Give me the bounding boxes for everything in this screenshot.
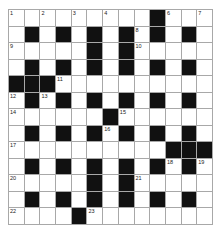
grid-cell[interactable] (166, 93, 182, 110)
grid-cell[interactable] (56, 109, 72, 126)
grid-cell[interactable] (103, 208, 119, 225)
grid-cell[interactable]: 15 (119, 109, 135, 126)
grid-cell[interactable] (9, 60, 25, 77)
grid-cell[interactable] (56, 175, 72, 192)
grid-cell[interactable]: 22 (9, 208, 25, 225)
grid-cell[interactable] (135, 76, 151, 93)
grid-cell[interactable] (103, 93, 119, 110)
grid-cell[interactable] (150, 142, 166, 159)
grid-cell[interactable] (119, 76, 135, 93)
grid-cell[interactable] (150, 109, 166, 126)
grid-cell[interactable] (72, 126, 88, 143)
grid-cell[interactable] (56, 43, 72, 60)
grid-cell[interactable] (40, 142, 56, 159)
grid-cell[interactable] (56, 10, 72, 27)
grid-cell[interactable]: 4 (103, 10, 119, 27)
grid-cell[interactable] (40, 126, 56, 143)
grid-cell[interactable] (135, 142, 151, 159)
grid-cell[interactable] (197, 43, 213, 60)
grid-cell[interactable] (56, 208, 72, 225)
grid-cell[interactable] (103, 175, 119, 192)
grid-cell[interactable]: 23 (87, 208, 103, 225)
grid-cell[interactable] (182, 175, 198, 192)
grid-cell[interactable] (197, 109, 213, 126)
grid-cell[interactable] (103, 192, 119, 209)
grid-cell[interactable] (166, 175, 182, 192)
grid-cell[interactable] (166, 43, 182, 60)
grid-cell[interactable] (135, 126, 151, 143)
grid-cell[interactable] (103, 159, 119, 176)
grid-cell[interactable] (197, 175, 213, 192)
grid-cell[interactable] (72, 159, 88, 176)
grid-cell[interactable]: 7 (197, 10, 213, 27)
grid-cell[interactable] (40, 109, 56, 126)
grid-cell[interactable] (166, 109, 182, 126)
grid-cell[interactable] (72, 93, 88, 110)
grid-cell[interactable]: 3 (72, 10, 88, 27)
grid-cell[interactable] (40, 43, 56, 60)
grid-cell[interactable] (40, 159, 56, 176)
grid-cell[interactable] (119, 10, 135, 27)
grid-cell[interactable] (182, 109, 198, 126)
grid-cell[interactable] (9, 126, 25, 143)
grid-cell[interactable] (103, 27, 119, 44)
grid-cell[interactable]: 1 (9, 10, 25, 27)
grid-cell[interactable] (182, 43, 198, 60)
grid-cell[interactable]: 11 (56, 76, 72, 93)
grid-cell[interactable] (72, 109, 88, 126)
grid-cell[interactable] (197, 76, 213, 93)
grid-cell[interactable] (103, 142, 119, 159)
grid-cell[interactable] (197, 93, 213, 110)
grid-cell[interactable] (103, 60, 119, 77)
grid-cell[interactable] (135, 192, 151, 209)
grid-cell[interactable] (166, 192, 182, 209)
grid-cell[interactable]: 16 (103, 126, 119, 143)
grid-cell[interactable] (87, 109, 103, 126)
grid-cell[interactable] (166, 126, 182, 143)
grid-cell[interactable] (9, 192, 25, 209)
grid-cell[interactable] (182, 76, 198, 93)
grid-cell[interactable] (119, 208, 135, 225)
grid-cell[interactable] (72, 27, 88, 44)
grid-cell[interactable] (182, 10, 198, 27)
grid-cell[interactable] (87, 10, 103, 27)
grid-cell[interactable]: 20 (9, 175, 25, 192)
grid-cell[interactable]: 10 (135, 43, 151, 60)
grid-cell[interactable] (166, 76, 182, 93)
grid-cell[interactable] (56, 142, 72, 159)
grid-cell[interactable] (25, 43, 41, 60)
grid-cell[interactable] (135, 93, 151, 110)
grid-cell[interactable] (103, 43, 119, 60)
grid-cell[interactable]: 21 (135, 175, 151, 192)
grid-cell[interactable] (135, 10, 151, 27)
grid-cell[interactable] (197, 126, 213, 143)
grid-cell[interactable] (119, 142, 135, 159)
grid-cell[interactable] (103, 76, 119, 93)
grid-cell[interactable] (9, 159, 25, 176)
grid-cell[interactable] (166, 60, 182, 77)
grid-cell[interactable] (72, 60, 88, 77)
grid-cell[interactable] (197, 27, 213, 44)
grid-cell[interactable] (150, 76, 166, 93)
grid-cell[interactable] (150, 208, 166, 225)
grid-cell[interactable]: 8 (135, 27, 151, 44)
grid-cell[interactable]: 6 (166, 10, 182, 27)
grid-cell[interactable] (150, 175, 166, 192)
grid-cell[interactable] (9, 27, 25, 44)
grid-cell[interactable] (40, 175, 56, 192)
grid-cell[interactable] (87, 142, 103, 159)
grid-cell[interactable] (72, 76, 88, 93)
grid-cell[interactable] (166, 27, 182, 44)
grid-cell[interactable] (197, 60, 213, 77)
grid-cell[interactable] (25, 208, 41, 225)
grid-cell[interactable]: 12 (9, 93, 25, 110)
grid-cell[interactable] (135, 109, 151, 126)
grid-cell[interactable] (40, 27, 56, 44)
grid-cell[interactable] (25, 175, 41, 192)
grid-cell[interactable] (72, 142, 88, 159)
grid-cell[interactable] (166, 208, 182, 225)
grid-cell[interactable] (197, 208, 213, 225)
grid-cell[interactable] (135, 208, 151, 225)
grid-cell[interactable]: 2 (40, 10, 56, 27)
grid-cell[interactable] (25, 109, 41, 126)
